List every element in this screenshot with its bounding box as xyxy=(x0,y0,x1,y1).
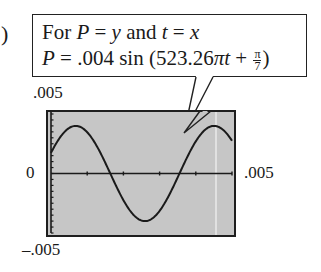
x-max-label: .005 xyxy=(244,163,274,183)
graph-svg xyxy=(0,0,321,272)
x-min-label: 0 xyxy=(26,163,35,183)
y-max-label: .005 xyxy=(33,83,63,103)
y-min-label: –.005 xyxy=(22,240,60,260)
